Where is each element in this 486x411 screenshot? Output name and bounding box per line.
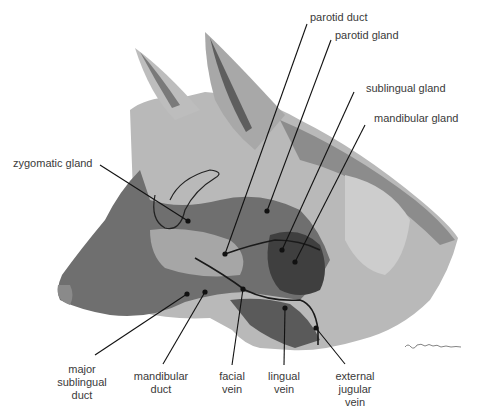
marker-dot	[292, 259, 297, 264]
marker-dot	[282, 305, 287, 310]
label-zygomatic-gland: zygomatic gland	[13, 157, 93, 170]
label-parotid-duct: parotid duct	[310, 11, 367, 24]
marker-dot	[185, 218, 190, 223]
label-mandibular-gland: mandibular gland	[374, 112, 458, 125]
marker-dot	[222, 251, 227, 256]
marker-dot	[202, 289, 207, 294]
artist-signature	[405, 344, 461, 348]
label-parotid-gland: parotid gland	[335, 29, 399, 42]
label-facial-vein: facial vein	[219, 370, 245, 396]
label-major-sublingual-duct: major sublingual duct	[57, 363, 107, 402]
marker-dot	[184, 291, 189, 296]
marker-dot	[313, 325, 318, 330]
label-external-jugular-vein: external jugular vein	[335, 370, 374, 409]
label-lingual-vein: lingual vein	[268, 370, 300, 396]
marker-dot	[240, 286, 245, 291]
dog-head-illustration	[0, 0, 486, 411]
marker-dot	[279, 247, 284, 252]
marker-dot	[264, 208, 269, 213]
nose	[58, 285, 73, 305]
label-sublingual-gland: sublingual gland	[366, 82, 446, 95]
label-mandibular-duct: mandibular duct	[134, 370, 188, 396]
